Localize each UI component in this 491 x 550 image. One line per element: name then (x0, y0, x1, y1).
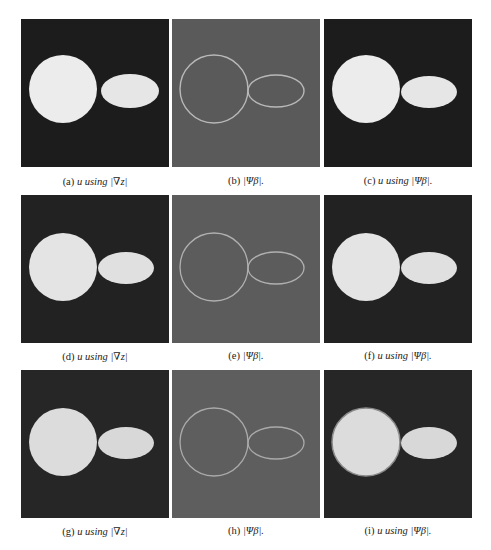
panel-h-image (172, 370, 320, 518)
panel-f-image (324, 195, 472, 343)
caption-a: (a) u using |∇z| (15, 175, 175, 187)
panel-e-image (172, 195, 320, 343)
caption-e: (e) |Ψβ|. (166, 350, 326, 361)
panel-d-image (21, 195, 169, 343)
caption-g: (g) u using |∇z| (15, 525, 175, 537)
panel-i-image (324, 370, 472, 518)
panel-c-image (324, 19, 472, 167)
panel-a-image (21, 19, 169, 167)
panel-g-image (21, 370, 169, 518)
caption-d: (d) u using |∇z| (15, 350, 175, 362)
panel-b-image (172, 19, 320, 167)
caption-f: (f) u using |Ψβ|. (318, 350, 478, 361)
caption-b: (b) |Ψβ|. (166, 175, 326, 186)
caption-h: (h) |Ψβ|. (166, 525, 326, 536)
caption-c: (c) u using |Ψβ|. (318, 175, 478, 186)
caption-i: (i) u using |Ψβ|. (318, 525, 478, 536)
